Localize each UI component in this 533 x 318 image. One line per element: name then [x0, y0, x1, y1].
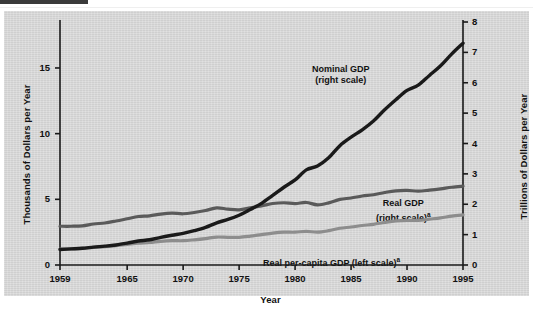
- x-tick-label: 1990: [385, 273, 429, 284]
- axis-lines: [60, 20, 463, 265]
- right-tick-label: 1: [472, 229, 492, 240]
- chart-plate: Thousands of Dollars per Year Trillions …: [4, 11, 529, 296]
- right-tick-label: 0: [472, 259, 492, 270]
- right-tick-label: 8: [472, 16, 492, 27]
- left-tick-label: 15: [24, 62, 50, 73]
- left-tick-label: 5: [24, 193, 50, 204]
- x-tick-label: 1965: [105, 273, 149, 284]
- axis-ticks: [55, 22, 468, 270]
- right-tick-label: 2: [472, 198, 492, 209]
- right-tick-label: 6: [472, 77, 492, 88]
- plot-svg: [4, 11, 529, 296]
- x-tick-label: 1970: [161, 273, 205, 284]
- right-tick-label: 3: [472, 168, 492, 179]
- left-tick-label: 0: [24, 259, 50, 270]
- x-tick-label: 1980: [273, 273, 317, 284]
- figure-container: Thousands of Dollars per Year Trillions …: [0, 0, 533, 318]
- x-tick-label: 1975: [217, 273, 261, 284]
- x-tick-label: 1995: [441, 273, 485, 284]
- right-tick-label: 7: [472, 46, 492, 57]
- x-tick-label: 1985: [329, 273, 373, 284]
- right-tick-label: 4: [472, 138, 492, 149]
- right-tick-label: 5: [472, 107, 492, 118]
- top-caption-rule: [0, 0, 88, 4]
- left-tick-label: 10: [24, 128, 50, 139]
- data-series: [60, 43, 463, 249]
- top-hairline-divider: [0, 7, 533, 8]
- x-tick-label: 1959: [38, 273, 82, 284]
